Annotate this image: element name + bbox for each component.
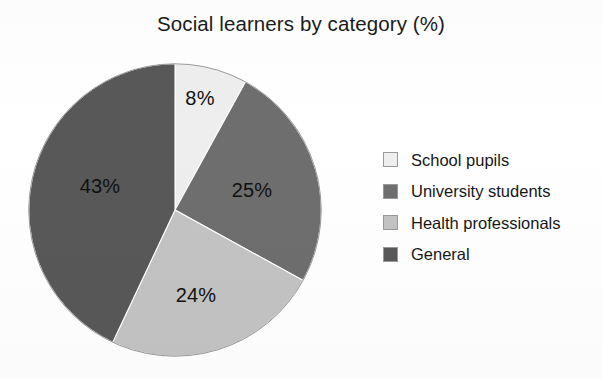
pie-chart: 8%25%24%43% — [28, 63, 322, 357]
legend-item-university-students[interactable]: University students — [383, 176, 598, 208]
legend: School pupilsUniversity studentsHealth p… — [383, 144, 598, 270]
legend-swatch-icon — [383, 184, 398, 199]
legend-swatch-icon — [383, 215, 398, 230]
legend-item-label: University students — [411, 183, 550, 200]
legend-item-school-pupils[interactable]: School pupils — [383, 144, 598, 176]
legend-swatch-icon — [383, 152, 398, 167]
legend-item-label: General — [411, 246, 470, 263]
pie-slice-label-university-students: 25% — [232, 179, 273, 202]
pie-slice-label-health-professionals: 24% — [176, 284, 217, 307]
pie-slice-label-school-pupils: 8% — [185, 87, 214, 110]
chart-page: Social learners by category (%) 8%25%24%… — [0, 0, 602, 379]
pie-slice-label-general: 43% — [80, 175, 121, 198]
legend-swatch-icon — [383, 247, 398, 262]
chart-title: Social learners by category (%) — [0, 12, 602, 36]
legend-item-general[interactable]: General — [383, 239, 598, 271]
legend-item-health-professionals[interactable]: Health professionals — [383, 207, 598, 239]
pie-chart-svg — [28, 63, 322, 357]
legend-item-label: School pupils — [411, 152, 509, 169]
legend-item-label: Health professionals — [411, 215, 561, 232]
